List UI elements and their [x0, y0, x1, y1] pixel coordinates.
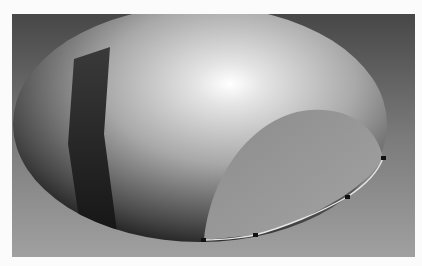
vertex-handle[interactable] [381, 156, 386, 160]
3d-viewport[interactable] [12, 14, 415, 257]
vertex-handle[interactable] [253, 233, 258, 237]
vertex-handle[interactable] [345, 195, 350, 199]
model-canvas[interactable] [12, 14, 415, 257]
vertex-handle[interactable] [201, 238, 206, 242]
